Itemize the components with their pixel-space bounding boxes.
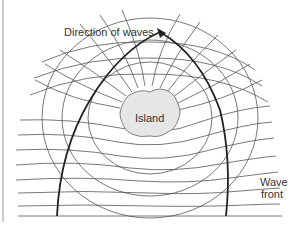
direction-of-waves-label: Direction of waves: [64, 26, 154, 38]
wave-front-label-line2: front: [261, 188, 283, 200]
island-label: Island: [135, 112, 164, 124]
wave-front-label-line1: Wave: [260, 176, 288, 188]
